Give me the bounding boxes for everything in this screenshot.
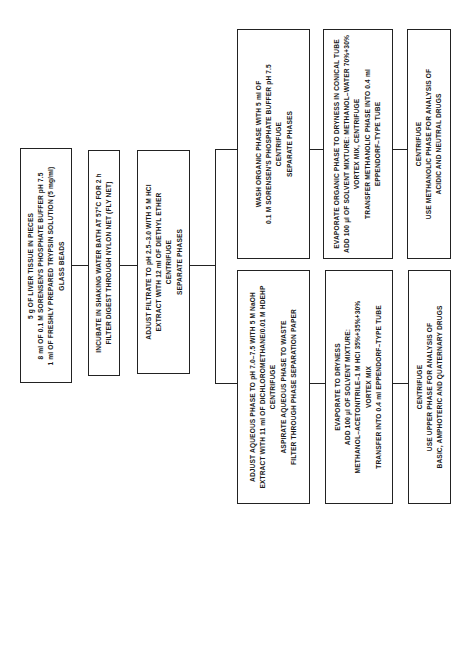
step-line: ACIDIC AND NEUTRAL DRUGS — [434, 69, 444, 219]
step-adjust-filtrate-text: ADJUST FILTRATE TO pH 2.5–3.0 WITH 5 M H… — [143, 184, 184, 339]
step-line: ADJUST FILTRATE TO pH 2.5–3.0 WITH 5 M H… — [143, 184, 153, 339]
connector-organic-wash-evaporate — [310, 149, 323, 150]
step-line: 5 g OF LIVER TISSUE IN PIECES — [26, 166, 36, 365]
step-organic-wash-text: WASH ORGANIC PHASE WITH 5 ml OF 0.1 M SO… — [253, 64, 294, 224]
connector-aqueous-adjust-evaporate — [310, 383, 325, 384]
step-line: TRANSFER METHANOLIC PHASE INTO 0.4 ml — [363, 35, 373, 253]
step-line: FILTER DIGEST THROUGH NYLON NET (FLY NET… — [104, 173, 114, 353]
step-incubate-text: INCUBATE IN SHAKING WATER BATH AT 57°C F… — [94, 173, 114, 353]
step-line: VORTEX MIX — [364, 301, 374, 474]
step-line: 1 ml OF FRESHLY PREPARED TRYPSIN SOLUTIO… — [46, 166, 56, 365]
step-line: CENTRIFUGE — [274, 64, 284, 224]
step-adjust-filtrate: ADJUST FILTRATE TO pH 2.5–3.0 WITH 5 M H… — [137, 150, 190, 374]
step-line: EPPENDORF–TYPE TUBE — [373, 35, 383, 253]
step-line: BASIC, AMPHOTERIC AND QUATERNARY DRUGS — [435, 306, 445, 469]
step-line: 0.1 M SORENSEN'S PHOSPHATE BUFFER pH 7.5 — [263, 64, 273, 224]
step-aqueous-adjust: ADJUST AQUEOUS PHASE TO pH 7.0–7.5 WITH … — [237, 270, 310, 504]
step-aqueous-centrifuge: CENTRIFUGE USE UPPER PHASE FOR ANALYSIS … — [408, 270, 451, 504]
step-aqueous-evaporate: EVAPORATE TO DRYNESS ADD 100 µl OF SOLVE… — [325, 270, 393, 504]
connector-aqueous-evaporate-centrifuge — [393, 383, 408, 384]
connector-branch-aqueous — [215, 383, 237, 384]
step-line: ADD 100 µl OF SOLVENT MIXTURE: METHANOL–… — [343, 35, 353, 253]
step-sample-preparation: 5 g OF LIVER TISSUE IN PIECES 8 ml OF 0.… — [20, 148, 72, 383]
connector-sample-incubate — [72, 265, 88, 266]
step-line: USE UPPER PHASE FOR ANALYSIS OF — [424, 306, 434, 469]
step-sample-text: 5 g OF LIVER TISSUE IN PIECES 8 ml OF 0.… — [26, 166, 67, 365]
step-line: CENTRIFUGE — [414, 69, 424, 219]
step-line: EVAPORATE TO DRYNESS — [333, 301, 343, 474]
step-line: VORTEX MIX, CENTRIFUGE — [353, 35, 363, 253]
connector-incubate-adjust — [120, 265, 137, 266]
step-line: USE METHANOLIC PHASE FOR ANALYSIS OF — [424, 69, 434, 219]
step-line: GLASS BEADS — [56, 166, 66, 365]
step-line: WASH ORGANIC PHASE WITH 5 ml OF — [253, 64, 263, 224]
step-incubate: INCUBATE IN SHAKING WATER BATH AT 57°C F… — [88, 150, 120, 376]
step-line: CENTRIFUGE — [268, 285, 278, 488]
connector-adjust-branch — [190, 265, 215, 266]
step-aqueous-adjust-text: ADJUST AQUEOUS PHASE TO pH 7.0–7.5 WITH … — [248, 285, 299, 488]
step-organic-evaporate-text: EVAPORATE ORGANIC PHASE TO DRYNESS IN CO… — [332, 35, 383, 253]
step-line: CENTRIFUGE — [164, 184, 174, 339]
step-line: ADD 100 µl OF SOLVENT MIXTURE: — [344, 301, 354, 474]
step-line: ADJUST AQUEOUS PHASE TO pH 7.0–7.5 WITH … — [248, 285, 258, 488]
step-line: METHANOL–ACETONITRILE–1 M HCl 35%+35%+30… — [354, 301, 364, 474]
step-line: INCUBATE IN SHAKING WATER BATH AT 57°C F… — [94, 173, 104, 353]
step-organic-wash: WASH ORGANIC PHASE WITH 5 ml OF 0.1 M SO… — [237, 29, 310, 259]
step-organic-centrifuge-text: CENTRIFUGE USE METHANOLIC PHASE FOR ANAL… — [414, 69, 445, 219]
connector-organic-evaporate-centrifuge — [393, 149, 407, 150]
step-organic-evaporate: EVAPORATE ORGANIC PHASE TO DRYNESS IN CO… — [323, 29, 393, 259]
step-aqueous-evaporate-text: EVAPORATE TO DRYNESS ADD 100 µl OF SOLVE… — [333, 301, 384, 474]
connector-branch-organic — [215, 149, 237, 150]
step-aqueous-centrifuge-text: CENTRIFUGE USE UPPER PHASE FOR ANALYSIS … — [414, 306, 445, 469]
step-line: EXTRACT WITH 12 ml OF DIETHYL ETHER — [153, 184, 163, 339]
step-line: EVAPORATE ORGANIC PHASE TO DRYNESS IN CO… — [332, 35, 342, 253]
step-line: CENTRIFUGE — [414, 306, 424, 469]
step-line: ASPIRATE AQUEOUS PHASE TO WASTE — [279, 285, 289, 488]
step-line: SEPARATE PHASES — [174, 184, 184, 339]
step-line: EXTRACT WITH 11 ml OF DICHLOROMETHANE/0.… — [258, 285, 268, 488]
step-line: 8 ml OF 0.1 M SORENSEN'S PHOSPHATE BUFFE… — [36, 166, 46, 365]
step-line: TRANSFER INTO 0.4 ml EPPENDORF–TYPE TUBE — [374, 301, 384, 474]
step-line: FILTER THROUGH PHASE SEPARATION PAPER — [289, 285, 299, 488]
connector-branch-vertical — [215, 149, 216, 383]
step-organic-centrifuge: CENTRIFUGE USE METHANOLIC PHASE FOR ANAL… — [407, 29, 451, 259]
step-line: SEPARATE PHASES — [284, 64, 294, 224]
